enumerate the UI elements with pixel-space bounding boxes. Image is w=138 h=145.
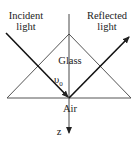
z-axis-label: z	[55, 126, 63, 137]
glass-label: Glass	[57, 55, 83, 66]
incident-label-line2: light	[6, 21, 46, 32]
air-label: Air	[60, 103, 80, 114]
reflected-ray	[69, 37, 129, 98]
incident-label-line1: Incident	[6, 10, 46, 21]
reflected-light-label: Reflected light	[84, 10, 130, 32]
angle-subscript: 0	[59, 80, 63, 88]
reflected-label-line1: Reflected	[84, 10, 130, 21]
reflected-label-line2: light	[84, 21, 130, 32]
diagram-canvas: Incident light Reflected light Glass υ0 …	[0, 0, 138, 145]
angle-label: υ0	[54, 74, 66, 90]
incident-light-label: Incident light	[6, 10, 46, 32]
